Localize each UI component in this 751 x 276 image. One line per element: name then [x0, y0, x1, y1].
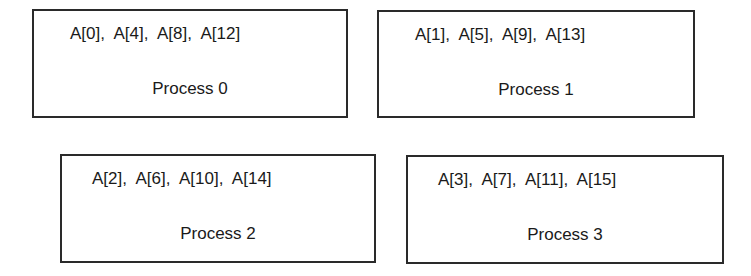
process-0-elements: A[0], A[4], A[8], A[12]	[70, 24, 240, 44]
process-3-label: Process 3	[408, 225, 722, 245]
process-2-elements: A[2], A[6], A[10], A[14]	[92, 169, 272, 189]
process-1-label: Process 1	[379, 80, 693, 100]
process-1-elements: A[1], A[5], A[9], A[13]	[415, 25, 585, 45]
process-3-box: A[3], A[7], A[11], A[15] Process 3	[406, 155, 724, 264]
process-0-box: A[0], A[4], A[8], A[12] Process 0	[32, 9, 348, 118]
process-2-box: A[2], A[6], A[10], A[14] Process 2	[60, 154, 376, 263]
process-3-elements: A[3], A[7], A[11], A[15]	[438, 170, 616, 190]
process-1-box: A[1], A[5], A[9], A[13] Process 1	[377, 10, 695, 118]
process-2-label: Process 2	[62, 224, 374, 244]
process-0-label: Process 0	[34, 79, 346, 99]
